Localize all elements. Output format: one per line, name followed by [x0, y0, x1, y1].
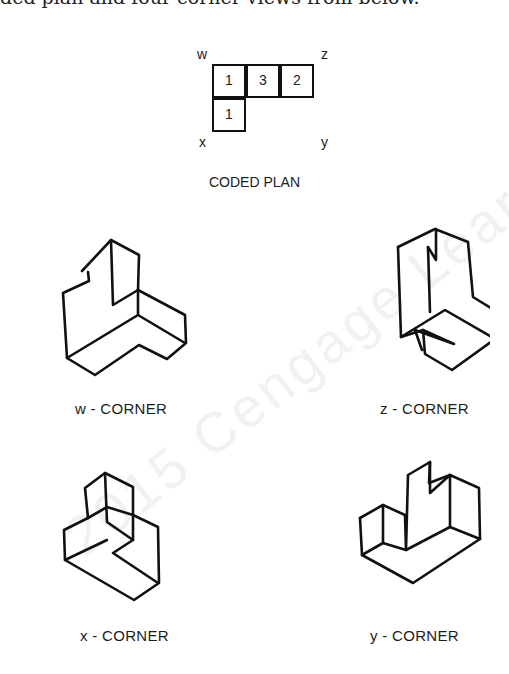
cell-value: 2 [280, 72, 314, 88]
cell-value: 1 [212, 106, 246, 122]
w-corner-drawing [55, 235, 195, 380]
x-corner-drawing [55, 465, 170, 605]
y-corner-drawing [350, 455, 490, 595]
plan-title: CODED PLAN [0, 174, 509, 190]
cell-value: 1 [212, 72, 246, 88]
z-corner-label: z - CORNER [380, 400, 469, 417]
z-corner-drawing [370, 222, 490, 377]
y-corner-label: y - CORNER [370, 627, 459, 644]
corner-letter-y: y [321, 134, 328, 150]
corner-letter-x: x [199, 134, 206, 150]
w-corner-label: w - CORNER [75, 400, 167, 417]
corner-letter-z: z [321, 46, 328, 62]
corner-letter-w: w [197, 46, 207, 62]
coded-plan: w z x y 1 3 2 1 CODED PLAN [0, 0, 509, 200]
cell-value: 3 [246, 72, 280, 88]
x-corner-label: x - CORNER [80, 627, 169, 644]
